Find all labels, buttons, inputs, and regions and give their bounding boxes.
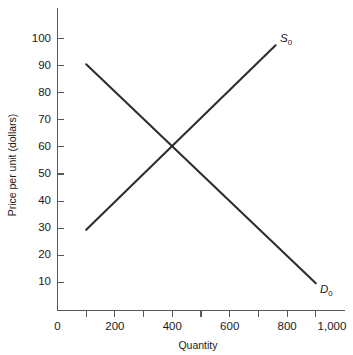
y-tick-label-60: 60 bbox=[38, 140, 51, 152]
y-tick-label-10: 10 bbox=[38, 275, 51, 287]
x-tick-label-200: 200 bbox=[105, 320, 124, 332]
y-axis-tick-labels: 100 90 80 70 60 50 40 30 20 10 bbox=[32, 32, 51, 288]
demand-label-main: D bbox=[320, 283, 328, 295]
axis-frame bbox=[58, 8, 346, 311]
y-tick-label-100: 100 bbox=[32, 32, 51, 44]
x-tick-label-0: 0 bbox=[54, 320, 60, 332]
supply-curve-label: S0 bbox=[280, 32, 293, 47]
y-tick-label-30: 30 bbox=[38, 221, 51, 233]
y-tick-label-20: 20 bbox=[38, 248, 51, 260]
chart-svg: 100 90 80 70 60 50 40 30 20 10 0 200 bbox=[0, 0, 353, 355]
y-tick-label-70: 70 bbox=[38, 113, 51, 125]
demand-curve-label: D0 bbox=[320, 283, 333, 298]
x-tick-label-800: 800 bbox=[278, 320, 297, 332]
supply-label-sub: 0 bbox=[288, 38, 293, 47]
y-tick-label-80: 80 bbox=[38, 86, 51, 98]
demand-label-sub: 0 bbox=[328, 289, 333, 298]
y-axis-title: Price per unit (dollars) bbox=[6, 114, 18, 217]
demand-curve bbox=[86, 64, 316, 283]
x-tick-label-400: 400 bbox=[163, 320, 182, 332]
x-axis-tick-labels: 0 200 400 600 800 1,000 bbox=[54, 320, 346, 332]
y-tick-label-40: 40 bbox=[38, 194, 51, 206]
supply-curve bbox=[86, 45, 275, 230]
x-tick-label-600: 600 bbox=[220, 320, 239, 332]
x-axis-title: Quantity bbox=[178, 339, 218, 351]
x-tick-label-1000: 1,000 bbox=[318, 320, 347, 332]
y-axis-ticks bbox=[58, 39, 65, 283]
supply-demand-chart: 100 90 80 70 60 50 40 30 20 10 0 200 bbox=[0, 0, 353, 355]
y-tick-label-50: 50 bbox=[38, 167, 51, 179]
x-axis-ticks bbox=[86, 311, 316, 317]
y-tick-label-90: 90 bbox=[38, 59, 51, 71]
